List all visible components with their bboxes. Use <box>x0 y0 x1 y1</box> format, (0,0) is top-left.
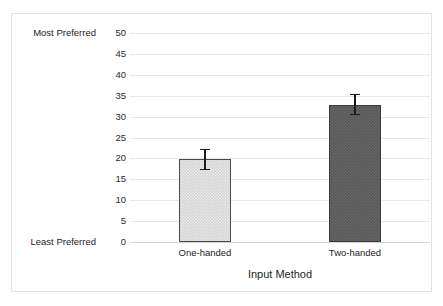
annotation-least-preferred: Least Preferred <box>31 237 96 247</box>
y-axis-tick-label: 40 <box>100 70 126 80</box>
y-axis-tick-label: 20 <box>100 154 126 164</box>
y-axis-tick-label: 0 <box>100 237 126 247</box>
error-bar-cap-top <box>200 149 210 150</box>
error-bar-cap-bottom <box>200 169 210 170</box>
y-axis-tick-label: 15 <box>100 175 126 185</box>
gridline <box>130 54 430 55</box>
x-axis-tick-label: One-handed <box>179 248 232 258</box>
error-bar-cap-bottom <box>350 114 360 115</box>
gridline <box>130 96 430 97</box>
y-axis-tick-label: 45 <box>100 49 126 59</box>
error-bar-stem <box>354 94 356 115</box>
y-axis-tick-label: 30 <box>100 112 126 122</box>
y-axis-tick-label: 10 <box>100 195 126 205</box>
chart-figure: Most Preferred Least Preferred 051015202… <box>11 13 432 292</box>
gridline <box>130 221 430 222</box>
bar-one-handed <box>179 159 231 242</box>
gridline <box>130 117 430 118</box>
y-axis-tick-labels: 05101520253035404550 <box>100 33 126 242</box>
x-axis-tick-label: Two-handed <box>329 248 381 258</box>
gridline <box>130 158 430 159</box>
bar-two-handed <box>329 105 381 242</box>
axis-endpoint-annotations: Most Preferred Least Preferred <box>22 33 96 242</box>
y-axis-tick-label: 35 <box>100 91 126 101</box>
annotation-most-preferred: Most Preferred <box>33 28 96 38</box>
gridline <box>130 242 430 243</box>
y-axis-tick-label: 50 <box>100 28 126 38</box>
gridline <box>130 33 430 34</box>
gridline <box>130 138 430 139</box>
error-bar-stem <box>204 149 206 170</box>
x-axis-title: Input Method <box>130 269 430 280</box>
gridline <box>130 179 430 180</box>
y-axis-tick-label: 25 <box>100 133 126 143</box>
gridline <box>130 200 430 201</box>
error-bar-cap-top <box>350 94 360 95</box>
y-axis-tick-label: 5 <box>100 216 126 226</box>
gridline <box>130 75 430 76</box>
plot-area <box>130 33 430 242</box>
